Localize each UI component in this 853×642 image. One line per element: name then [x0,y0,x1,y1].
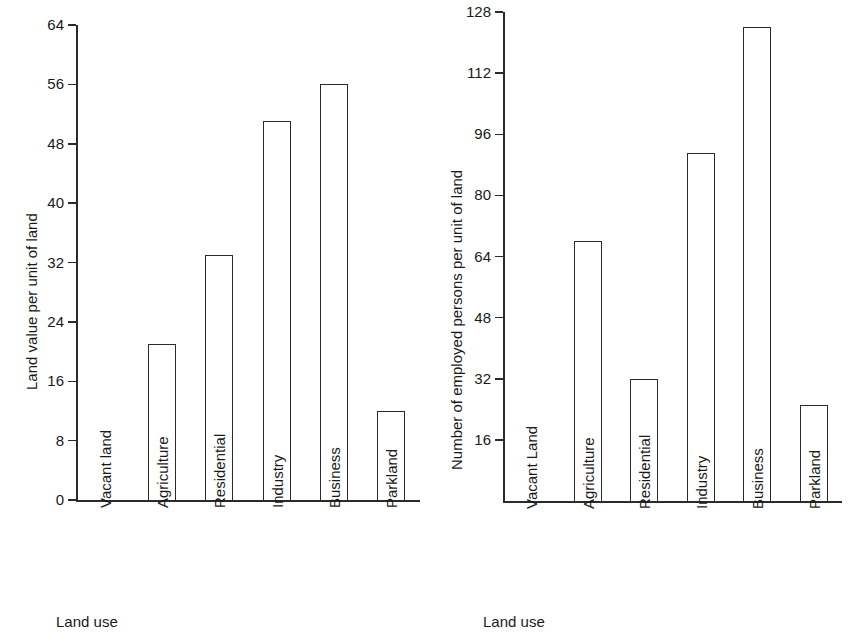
x-category-label: Residential [212,434,227,508]
chart-panel-employed-persons: 163248648096112128Vacant LandAgriculture… [427,0,853,642]
x-axis-line [76,500,420,502]
y-axis-line [503,12,505,501]
y-tick-mark [495,72,503,74]
y-tick-mark [495,317,503,319]
y-tick-mark [68,499,76,501]
y-tick-mark [495,195,503,197]
y-axis-title: Number of employed persons per unit of l… [449,170,464,470]
x-category-label: Vacant Land [524,426,539,509]
bar [743,27,771,502]
x-category-label: Agriculture [155,436,170,508]
x-axis-title: Land use [483,614,545,629]
x-category-label: Industry [694,456,709,509]
figure-canvas: 0816243240485664Vacant landAgricultureRe… [0,0,853,642]
y-tick-label: 96 [447,126,491,141]
x-axis-title: Land use [56,614,118,629]
y-tick-mark [495,439,503,441]
chart-panel-land-value: 0816243240485664Vacant landAgricultureRe… [0,0,427,642]
bar [263,121,291,501]
y-tick-mark [68,440,76,442]
y-tick-mark [68,143,76,145]
x-category-label: Parkland [807,450,822,509]
x-category-label: Agriculture [581,437,596,509]
y-tick-label: 56 [20,76,64,91]
y-tick-label: 128 [447,4,491,19]
y-tick-mark [68,24,76,26]
x-category-label: Parkland [384,449,399,508]
y-tick-label: 112 [447,65,491,80]
y-tick-mark [495,378,503,380]
y-axis-line [76,25,78,500]
y-tick-mark [68,262,76,264]
y-tick-mark [68,321,76,323]
y-tick-label: 0 [20,492,64,507]
x-category-label: Vacant land [98,430,113,508]
bar [320,84,348,501]
bar [687,153,715,502]
x-category-label: Industry [270,455,285,508]
x-category-label: Business [327,447,342,508]
y-tick-label: 64 [20,17,64,32]
y-tick-label: 8 [20,433,64,448]
x-category-label: Residential [637,435,652,509]
y-tick-mark [68,381,76,383]
y-tick-mark [68,84,76,86]
y-axis-title: Land value per unit of land [24,213,39,390]
y-tick-label: 48 [20,136,64,151]
y-tick-label: 40 [20,195,64,210]
y-tick-mark [495,11,503,13]
y-tick-mark [495,256,503,258]
x-axis-line [503,501,842,503]
y-tick-mark [68,202,76,204]
y-tick-mark [495,134,503,136]
x-category-label: Business [750,448,765,509]
